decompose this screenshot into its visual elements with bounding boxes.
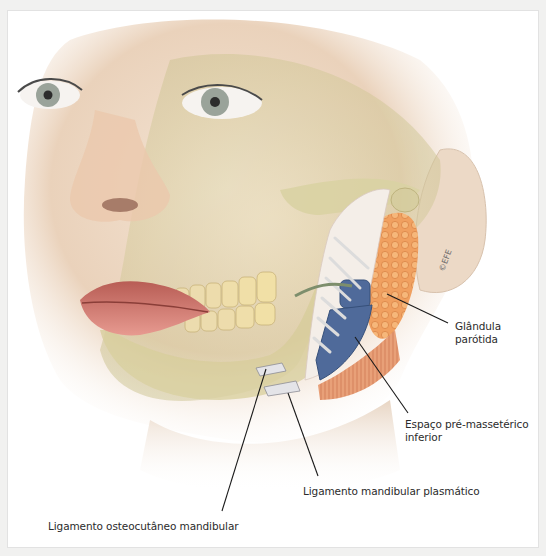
anatomical-illustration: ©EFE bbox=[0, 0, 546, 556]
label-osteocutaneous-ligament: Ligamento osteocutâneo mandibular bbox=[48, 520, 238, 533]
label-line: Ligamento osteocutâneo mandibular bbox=[48, 520, 238, 533]
label-line: Glândula bbox=[455, 320, 501, 333]
label-line: parótida bbox=[455, 333, 501, 346]
label-line: inferior bbox=[405, 431, 529, 444]
label-plasmatic-ligament: Ligamento mandibular plasmático bbox=[303, 485, 480, 498]
label-parotid-gland: Glândula parótida bbox=[455, 320, 501, 346]
label-line: Ligamento mandibular plasmático bbox=[303, 485, 480, 498]
label-line: Espaço pré-massetérico bbox=[405, 418, 529, 431]
label-premasseteric-space: Espaço pré-massetérico inferior bbox=[405, 418, 529, 444]
